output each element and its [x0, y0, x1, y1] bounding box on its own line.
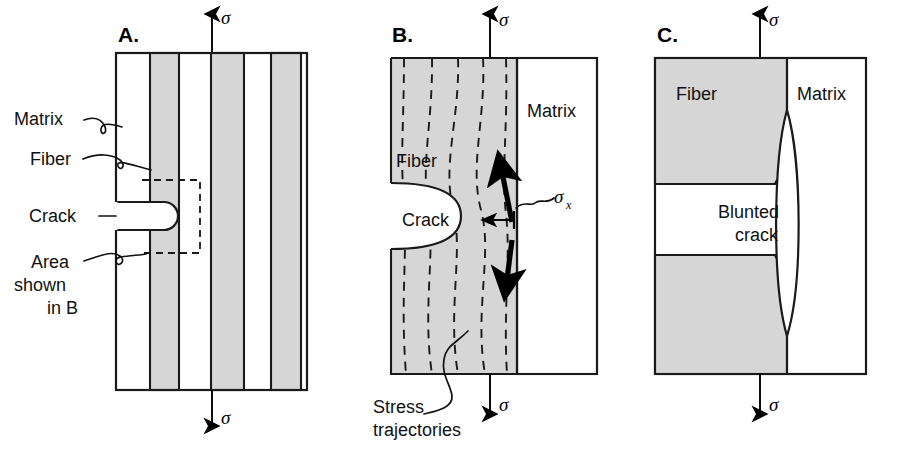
fiber-stripe-2 [211, 53, 244, 390]
panel-a-crack-shape [116, 202, 178, 230]
panel-c-fiber-upper [655, 58, 787, 184]
panel-c-label-blunted-line2: crack [735, 225, 779, 245]
panel-a-sigma-bottom-label: σ [221, 407, 231, 428]
panel-b-sigma-top-label: σ [499, 9, 509, 30]
panel-b-stress-arrow-top: σ [490, 9, 509, 57]
panel-a-sigma-top-label: σ [221, 7, 231, 28]
panel-a-label-crack: Crack [29, 206, 77, 226]
panel-b-label-sigma-x-subscript: x [565, 198, 572, 212]
panel-c-fiber-lower [655, 255, 787, 374]
panel-a: A. σ Matrix Fiber Crack Area [14, 7, 307, 428]
panel-b-label-stress-line2: trajectories [373, 420, 461, 440]
panel-b-label-fiber: Fiber [396, 151, 437, 171]
panel-c-label-fiber: Fiber [676, 84, 717, 104]
panel-b: B. σ [373, 9, 597, 440]
panel-c-stress-arrow-top: σ [760, 9, 779, 58]
fiber-stripe-3 [271, 53, 301, 390]
panel-b-label-sigma-x: σ [554, 186, 564, 207]
panel-a-label-area-line2: shown [14, 275, 66, 295]
panel-c: C. σ Fiber Matrix Blunted crack σ [655, 9, 866, 415]
panel-b-label-stress-line1: Stress [373, 397, 424, 417]
panel-a-label-fiber: Fiber [30, 149, 71, 169]
panel-c-letter: C. [657, 23, 678, 46]
panel-a-label-matrix: Matrix [14, 109, 63, 129]
panel-a-stress-arrow-top: σ [212, 7, 231, 52]
panel-b-label-matrix: Matrix [527, 101, 576, 121]
composite-crack-figure: A. σ Matrix Fiber Crack Area [0, 0, 898, 458]
panel-c-sigma-top-label: σ [769, 9, 779, 30]
panel-b-sigma-bottom-label: σ [499, 394, 509, 415]
panel-c-stress-arrow-bottom: σ [760, 374, 779, 415]
panel-a-label-area-line3: in B [47, 298, 78, 318]
panel-b-stress-arrow-bottom: σ [490, 374, 509, 415]
panel-a-stress-arrow-bottom: σ [212, 390, 231, 428]
panel-a-letter: A. [118, 23, 139, 46]
panel-b-label-crack: Crack [402, 210, 450, 230]
panel-b-letter: B. [392, 23, 413, 46]
panel-c-label-blunted-line1: Blunted [718, 202, 779, 222]
panel-c-sigma-bottom-label: σ [769, 394, 779, 415]
panel-c-label-matrix: Matrix [797, 84, 846, 104]
panel-a-label-area-line1: Area [31, 252, 70, 272]
